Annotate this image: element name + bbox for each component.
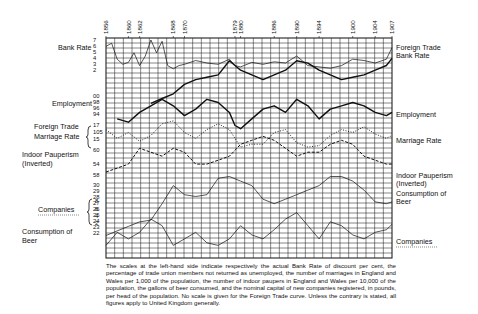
right-label-companies: Companies <box>396 237 433 246</box>
year-label-1880: 1880 <box>237 20 244 34</box>
tick-label: 2 <box>93 67 96 73</box>
axis-braces <box>86 126 92 225</box>
year-label-1870: 1870 <box>181 20 188 34</box>
right-label-employment: Employment <box>396 110 436 119</box>
tick-label: 58 <box>93 172 99 178</box>
year-axis-labels: 1856186018621868187018791880188618901894… <box>102 20 395 38</box>
left-label-consumption-of: Consumption of <box>22 227 72 236</box>
tick-label: 54 <box>93 161 100 167</box>
left-axis-labels: Bank Rate765432Employment00989694Foreign… <box>22 37 103 245</box>
tick-label: 15 <box>93 136 99 142</box>
year-label-1886: 1886 <box>270 20 277 34</box>
year-label-1904: 1904 <box>371 20 378 34</box>
series-line-employment <box>117 99 392 128</box>
year-label-1907: 1907 <box>388 20 395 34</box>
left-label-marriage-rate: Marriage Rate <box>34 132 80 141</box>
left-label-indoor-pauperism: Indoor Pauperism <box>22 150 79 159</box>
year-label-1862: 1862 <box>136 20 143 34</box>
year-label-1856: 1856 <box>102 20 109 34</box>
left-label-bank-rate: Bank Rate <box>58 43 92 52</box>
series-line-bank-rate <box>106 40 392 69</box>
year-label-1890: 1890 <box>293 20 300 34</box>
left-label--inverted-: (Inverted) <box>22 159 53 168</box>
series-line-foreign-trade <box>151 58 392 103</box>
series-line-indoor-pauperism-inverted- <box>106 136 392 172</box>
left-label-companies: Companies <box>38 205 75 214</box>
left-label-beer: Beer <box>22 236 38 245</box>
year-label-1860: 1860 <box>125 20 132 34</box>
right-label-beer: Beer <box>396 197 412 206</box>
right-series-labels: Foreign TradeBank RateEmploymentMarriage… <box>396 43 453 247</box>
series-line-companies <box>106 213 392 246</box>
tick-label: 60 <box>93 147 99 153</box>
year-label-1894: 1894 <box>315 20 322 34</box>
right-label--inverted-: (Inverted) <box>396 179 427 188</box>
tick-label: 94 <box>93 111 100 117</box>
series-line-consumption-of-beer <box>106 177 392 236</box>
year-label-1868: 1868 <box>169 20 176 34</box>
tick-label: 105 <box>93 129 103 135</box>
tick-label: 22 <box>93 230 99 236</box>
right-label-marriage-rate: Marriage Rate <box>396 136 442 145</box>
right-label-bank-rate: Bank Rate <box>396 51 430 60</box>
left-label-employment: Employment <box>52 99 92 108</box>
tick-label: 17 <box>93 122 99 128</box>
year-label-1900: 1900 <box>349 20 356 34</box>
chart-grid <box>106 38 392 258</box>
series-lines <box>106 40 392 245</box>
chart-caption: The scales at the left-hand side indicat… <box>106 262 396 306</box>
left-label-foreign-trade: Foreign Trade <box>34 122 79 131</box>
